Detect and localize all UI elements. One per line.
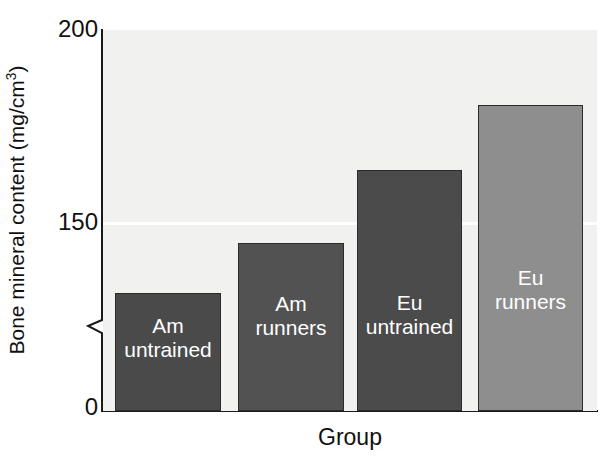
plot-area: Am untrained Am runners Eu untrained Eu … <box>103 30 597 411</box>
y-axis-title-text: Bone mineral content (mg/cm <box>5 80 28 354</box>
y-axis-title-tail: ) <box>5 65 28 72</box>
bar-eu-runners[interactable]: Eu runners <box>478 105 583 411</box>
bar-label-am-runners: Am runners <box>239 292 343 344</box>
bar-label-eu-runners: Eu runners <box>479 266 582 318</box>
bar-am-runners[interactable]: Am runners <box>238 243 344 411</box>
y-tick-label-0: 0 <box>36 395 98 419</box>
bar-am-untrained[interactable]: Am untrained <box>115 293 221 411</box>
bar-chart-figure: Bone mineral content (mg/cm3) 200 150 0 … <box>0 0 608 468</box>
bar-label-am-untrained: Am untrained <box>116 314 220 366</box>
bar-label-eu-untrained: Eu untrained <box>358 291 461 343</box>
y-axis-tick-labels: 200 150 0 <box>26 0 98 430</box>
y-tick-label-200: 200 <box>36 17 98 41</box>
y-tick-label-150: 150 <box>36 210 98 234</box>
y-axis-title-exponent: 3 <box>3 72 19 80</box>
x-axis-title: Group <box>103 424 597 451</box>
bar-eu-untrained[interactable]: Eu untrained <box>357 170 462 411</box>
